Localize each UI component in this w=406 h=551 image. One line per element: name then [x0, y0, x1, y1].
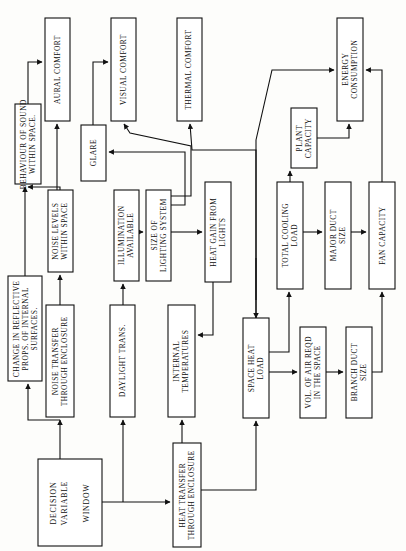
node-box-heat_transfer[interactable] [173, 443, 201, 547]
edge-heat_transfer-to-space_heat_load [201, 421, 256, 490]
edge-behaviour_sound-to-aural_comfort [28, 62, 42, 104]
node-box-change_reflective[interactable] [8, 276, 42, 381]
edge-branch_duct-to-fan_capacity [372, 292, 382, 372]
node-box-fan_capacity[interactable] [369, 182, 395, 289]
node-box-vol_air_reqd[interactable] [300, 327, 326, 418]
node-box-noise_transfer[interactable] [46, 305, 74, 417]
node-box-noise_levels[interactable] [48, 190, 73, 272]
node-box-energy_consumption[interactable] [337, 18, 363, 121]
flowchart-svg [0, 0, 406, 551]
edge-space_heat_load-to-total_cooling [269, 292, 289, 352]
node-box-behaviour_sound[interactable] [15, 104, 41, 184]
edge-plant_capacity-to-energy_consumption [317, 124, 349, 138]
node-box-daylight_trans[interactable] [110, 305, 135, 417]
node-layer [8, 18, 395, 547]
edge-size_lighting-to-visual_comfort [124, 124, 191, 196]
flowchart-canvas: AURAL COMFORTVISUAL COMFORTTHERMAL COMFO… [0, 0, 406, 551]
node-box-internal_temps[interactable] [168, 305, 195, 417]
node-box-aural_comfort[interactable] [45, 18, 70, 121]
edge-heat_gain_lights-to-internal_temps [198, 282, 213, 335]
edge-fan_capacity-to-energy_consumption [366, 70, 382, 182]
node-box-illumination[interactable] [114, 190, 139, 281]
node-box-major_duct[interactable] [325, 182, 351, 289]
node-box-total_cooling[interactable] [277, 182, 303, 289]
node-box-heat_gain_lights[interactable] [205, 182, 231, 282]
node-box-branch_duct[interactable] [346, 327, 372, 418]
node-box-plant_capacity[interactable] [291, 108, 317, 168]
node-box-glare[interactable] [81, 125, 106, 181]
node-box-visual_comfort[interactable] [111, 18, 136, 121]
node-box-size_lighting[interactable] [146, 190, 171, 281]
node-box-space_heat_load[interactable] [243, 318, 269, 418]
node-box-thermal_comfort[interactable] [177, 18, 202, 121]
edge-glare-to-visual_comfort [93, 62, 108, 125]
node-box-decision_variable[interactable] [38, 459, 102, 546]
